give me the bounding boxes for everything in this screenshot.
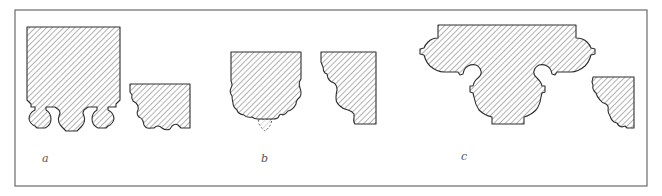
- diagram-stage: [0, 0, 662, 196]
- profile-c-capital: [420, 25, 595, 124]
- profile-c-corner: [592, 77, 634, 128]
- panel-b: [230, 52, 376, 131]
- profile-b-main: [230, 52, 301, 119]
- panel-label-c: c: [461, 150, 467, 163]
- profile-a-main: [27, 27, 120, 131]
- profile-b-corner: [321, 52, 376, 124]
- molding-profiles-diagram: [0, 0, 662, 196]
- panel-c: [420, 25, 634, 128]
- profile-a-corner: [130, 84, 190, 130]
- panel-a: [27, 27, 190, 131]
- panel-label-a: a: [42, 152, 49, 165]
- profile-b-pendant-dashed: [258, 119, 272, 131]
- panel-label-b: b: [261, 152, 268, 165]
